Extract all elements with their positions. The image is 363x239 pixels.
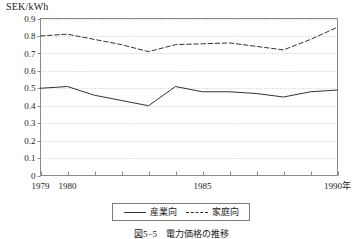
legend-swatch-solid — [124, 212, 146, 213]
y-tick-label: 0.1 — [24, 153, 35, 163]
y-tick-label: 0.6 — [24, 66, 36, 76]
plot-area: 00.10.20.30.40.50.60.70.80.9 19791980198… — [0, 0, 363, 200]
figure-electricity-price-trend: SEK/kWh 00.10.20.30.40.50.60.70.80.9 197… — [0, 0, 363, 239]
x-tick-label: 1985 — [194, 181, 213, 191]
y-tick-labels: 00.10.20.30.40.50.60.70.80.9 — [24, 14, 36, 181]
legend-swatch-dashed — [186, 212, 208, 213]
legend-entry-2: 家庭向 — [186, 208, 239, 217]
x-tick-label: 1980 — [59, 181, 78, 191]
y-tick-label: 0.7 — [24, 49, 36, 59]
legend-label: 産業向 — [150, 208, 177, 217]
y-tick-label: 0.4 — [24, 101, 36, 111]
line-chart: 00.10.20.30.40.50.60.70.80.9 19791980198… — [0, 0, 363, 200]
y-tick-label: 0.3 — [24, 118, 36, 128]
plot-frame — [41, 19, 338, 176]
y-tick-label: 0.9 — [24, 14, 36, 24]
figure-caption: 図5−5 電力価格の推移 — [0, 227, 363, 239]
series-line-2 — [41, 27, 338, 51]
legend-label: 家庭向 — [212, 208, 239, 217]
series-lines — [41, 27, 338, 106]
y-tick-label: 0 — [31, 171, 36, 181]
x-axis-ticks — [42, 172, 339, 176]
y-tick-label: 0.8 — [24, 31, 36, 41]
series-line-1 — [41, 87, 338, 106]
legend-entry-1: 産業向 — [124, 208, 177, 217]
chart-legend: 産業向家庭向 — [112, 203, 250, 221]
x-tick-labels: 1979198019851990年 — [32, 180, 352, 191]
x-tick-label: 1990年 — [324, 180, 351, 191]
y-tick-label: 0.5 — [24, 83, 36, 93]
y-tick-label: 0.2 — [24, 136, 35, 146]
x-tick-label: 1979 — [32, 181, 51, 191]
